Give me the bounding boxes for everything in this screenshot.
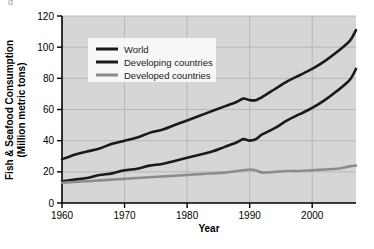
x-axis-title: Year (198, 223, 219, 234)
x-tick-label: 1960 (51, 210, 74, 221)
legend-label-developed-countries: Developed countries (124, 70, 211, 81)
y-tick-label: 60 (43, 104, 55, 115)
y-axis-title-line1: Fish & Seafood Consumption (4, 40, 15, 180)
y-axis-title-line2: (Million metric tons) (16, 63, 27, 158)
cropped-glyph-fragment: g (8, 0, 18, 5)
y-tick-label: 80 (43, 73, 55, 84)
fish-seafood-consumption-line-chart: 020406080100120 19601970198019902000 Fis… (0, 0, 374, 249)
chart-legend: WorldDeveloping countriesDeveloped count… (88, 38, 216, 82)
chart-figure: g 020406080100120 19601970198019902000 F… (0, 0, 374, 249)
x-tick-label: 1980 (176, 210, 199, 221)
y-tick-label: 0 (48, 198, 54, 209)
x-tick-label: 1970 (113, 210, 136, 221)
legend-label-developing-countries: Developing countries (124, 57, 213, 68)
x-tick-label: 2000 (301, 210, 324, 221)
legend-label-world: World (124, 44, 149, 55)
y-tick-label: 40 (43, 135, 55, 146)
y-tick-label: 120 (37, 11, 54, 22)
x-tick-label: 1990 (239, 210, 262, 221)
y-tick-label: 100 (37, 42, 54, 53)
y-tick-label: 20 (43, 166, 55, 177)
